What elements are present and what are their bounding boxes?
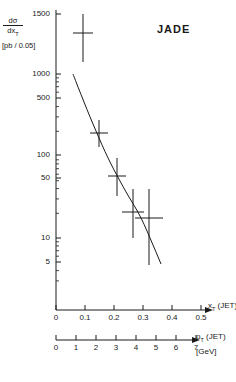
x-tick-label-xt: 0.4 bbox=[163, 314, 181, 322]
x-tick-label-xt: 0.2 bbox=[105, 314, 123, 322]
y-tick-label: 1500 bbox=[2, 10, 50, 18]
data-point bbox=[73, 14, 93, 62]
x-tick-label-pt: 7 bbox=[189, 344, 203, 352]
y-axis-title-denominator: dxT bbox=[3, 26, 23, 37]
y-tick-label: 100 bbox=[2, 151, 50, 159]
x-tick-label-pt: 6 bbox=[169, 344, 183, 352]
x-tick-label-xt: 0.1 bbox=[76, 314, 94, 322]
y-axis-title: dσ dxT bbox=[3, 16, 23, 37]
y-tick-label: 10 bbox=[2, 234, 50, 242]
x-tick-label-xt: 0 bbox=[47, 314, 65, 322]
x-tick-label-pt: 1 bbox=[69, 344, 83, 352]
y-axis-units: [pb / 0.05] bbox=[2, 42, 35, 50]
y-tick-label: 1000 bbox=[2, 70, 50, 78]
y-axis bbox=[56, 10, 61, 310]
plot-canvas bbox=[0, 0, 236, 382]
y-tick-label: 5 bbox=[2, 258, 50, 266]
x-tick-label-pt: 2 bbox=[89, 344, 103, 352]
x-axis-xt bbox=[56, 305, 213, 313]
x-tick-label-pt: 3 bbox=[109, 344, 123, 352]
x-tick-label-xt: 0.3 bbox=[134, 314, 152, 322]
x-tick-label-pt: 4 bbox=[129, 344, 143, 352]
x-tick-label-xt: 0.5 bbox=[192, 314, 210, 322]
x-axis-pt-name: pT (JET) bbox=[196, 333, 226, 343]
y-tick-label: 50 bbox=[2, 174, 50, 182]
data-point bbox=[122, 189, 144, 238]
x-tick-label-pt: 5 bbox=[149, 344, 163, 352]
chart-title: JADE bbox=[157, 24, 190, 35]
x-axis-xt-name: xT (JET) bbox=[208, 302, 236, 312]
data-points bbox=[73, 14, 163, 265]
x-tick-label-pt: 0 bbox=[49, 344, 63, 352]
x-axis-pt bbox=[56, 335, 200, 343]
data-point bbox=[135, 189, 163, 265]
y-tick-label: 500 bbox=[2, 94, 50, 102]
chart-figure: dσ dxT [pb / 0.05] JADE xT (JET) pT (JET… bbox=[0, 0, 236, 382]
